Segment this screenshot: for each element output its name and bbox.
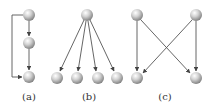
edge-arrow (88, 21, 96, 71)
panel-c: (c) (131, 9, 202, 102)
tree-structures-diagram: (a)(b)(c) (0, 0, 213, 109)
edge-arrow (78, 21, 86, 71)
node-sphere (92, 72, 104, 84)
panel-b: (b) (51, 9, 123, 102)
edge-arrow (60, 20, 84, 71)
node-sphere (81, 9, 93, 21)
edge-arrow (12, 15, 23, 77)
panel-label: (c) (158, 91, 172, 102)
node-sphere (190, 9, 202, 21)
edge-arrow (141, 20, 190, 73)
node-sphere (190, 72, 202, 84)
panel-a: (a) (12, 9, 36, 102)
panel-label: (b) (82, 91, 96, 102)
edge-arrow (90, 20, 114, 71)
edge-arrow (143, 20, 192, 73)
node-sphere (71, 72, 83, 84)
node-sphere (111, 72, 123, 84)
node-sphere (131, 72, 143, 84)
node-sphere (51, 72, 63, 84)
node-sphere (131, 9, 143, 21)
panel-label: (a) (22, 91, 36, 102)
node-sphere (23, 9, 35, 21)
node-sphere (23, 37, 35, 49)
node-sphere (23, 71, 35, 83)
